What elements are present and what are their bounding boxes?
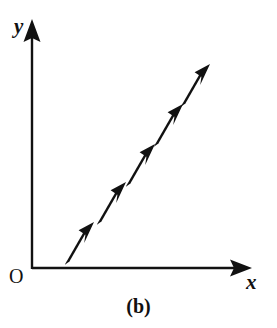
figure-caption: (b): [0, 296, 277, 316]
origin-label: O: [9, 266, 23, 286]
figure-canvas: [0, 0, 277, 328]
figure-background: [0, 0, 277, 328]
vector-field-figure: y x O (b): [0, 0, 277, 328]
x-axis-label: x: [246, 272, 257, 293]
y-axis-label: y: [14, 16, 23, 37]
